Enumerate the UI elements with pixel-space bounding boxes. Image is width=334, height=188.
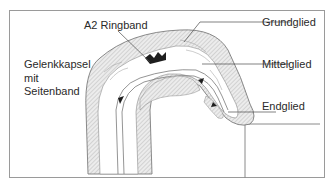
label-seitenband: Seitenband [24,85,80,97]
label-gelenkkapsel-mit: mit [24,72,39,84]
label-endglied: Endglied [262,100,305,112]
label-grundglied: Grundglied [262,16,316,28]
table-surface [245,124,320,178]
label-mittelglied: Mittelglied [262,58,312,70]
label-gelenkkapsel: Gelenkkapsel [24,58,91,70]
finger-skin [86,30,254,174]
label-a2-ringband: A2 Ringband [84,19,148,31]
